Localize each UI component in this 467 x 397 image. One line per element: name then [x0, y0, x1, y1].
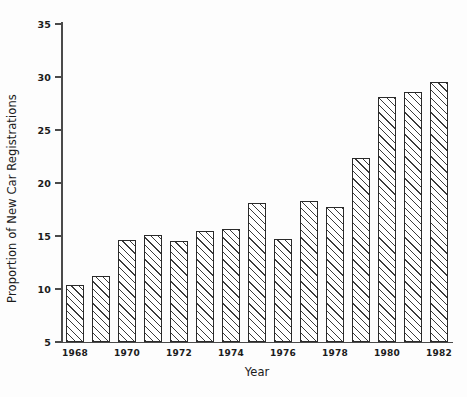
y-axis-tick-label: 15 — [0, 231, 51, 242]
y-axis-tick — [55, 235, 62, 237]
y-axis-tick — [55, 129, 62, 131]
plot-area — [62, 24, 452, 342]
bar-chart: Proportion of New Car Registrations Year… — [0, 0, 467, 397]
bar — [430, 82, 448, 342]
y-axis-tick — [55, 288, 62, 290]
bar — [222, 229, 240, 342]
bar — [378, 97, 396, 342]
x-axis-tick-label: 1982 — [426, 348, 452, 358]
bar — [274, 239, 292, 342]
x-axis-tick-label: 1980 — [374, 348, 400, 358]
y-axis-tick — [55, 23, 62, 25]
bar — [300, 201, 318, 342]
bar — [196, 231, 214, 342]
x-axis-tick-label: 1976 — [270, 348, 296, 358]
bar — [170, 241, 188, 342]
bar — [92, 276, 110, 342]
x-axis-tick-label: 1968 — [62, 348, 88, 358]
bar — [352, 158, 370, 342]
bar — [326, 207, 344, 342]
y-axis-tick-label: 5 — [0, 337, 51, 348]
x-axis-tick-label: 1972 — [166, 348, 192, 358]
bar — [404, 92, 422, 342]
x-axis-tick-label: 1974 — [218, 348, 244, 358]
y-axis-tick — [55, 341, 62, 343]
y-axis-tick-label: 30 — [0, 72, 51, 83]
x-axis-tick-label: 1978 — [322, 348, 348, 358]
y-axis-tick — [55, 76, 62, 78]
y-axis-tick-label: 20 — [0, 178, 51, 189]
bar — [248, 203, 266, 342]
y-axis-tick-label: 25 — [0, 125, 51, 136]
bar — [144, 235, 162, 342]
y-axis-tick — [55, 182, 62, 184]
y-axis-tick-label: 35 — [0, 19, 51, 30]
bar — [66, 285, 84, 342]
bar — [118, 240, 136, 342]
x-axis-label: Year — [62, 365, 452, 379]
x-axis-tick-label: 1970 — [114, 348, 140, 358]
y-axis-tick-label: 10 — [0, 284, 51, 295]
